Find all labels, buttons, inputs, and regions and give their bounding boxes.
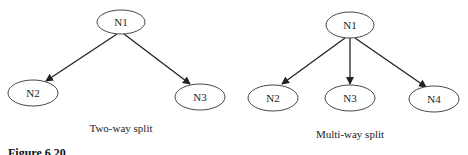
edge-n1-n2 [282, 38, 345, 84]
node-n1: N1 [326, 12, 374, 38]
edge-n1-n4 [355, 38, 426, 87]
edge-n1-n2 [46, 34, 117, 81]
multi-way-split-caption: Multi-way split [316, 128, 384, 140]
node-n2: N2 [248, 85, 298, 111]
two-way-split-caption: Two-way split [89, 122, 152, 134]
svg-text:N2: N2 [26, 87, 39, 99]
node-n2: N2 [8, 80, 58, 106]
svg-text:N3: N3 [193, 91, 207, 103]
edge-n1-n3 [124, 34, 190, 84]
node-n3: N3 [175, 84, 225, 110]
figure-caption: Figure 6.20 [8, 146, 66, 155]
node-n4: N4 [409, 86, 459, 112]
node-n1: N1 [97, 10, 145, 34]
svg-text:N1: N1 [343, 19, 356, 31]
svg-text:N1: N1 [114, 16, 127, 28]
svg-text:N2: N2 [266, 92, 279, 104]
svg-text:N4: N4 [427, 93, 441, 105]
two-way-split-diagram: N1 N2 N3 [8, 10, 225, 110]
split-diagrams: N1 N2 N3 N1 N2 N3 N4 [0, 0, 468, 155]
node-n3: N3 [325, 85, 375, 111]
svg-text:N3: N3 [343, 92, 357, 104]
multi-way-split-diagram: N1 N2 N3 N4 [248, 12, 459, 112]
